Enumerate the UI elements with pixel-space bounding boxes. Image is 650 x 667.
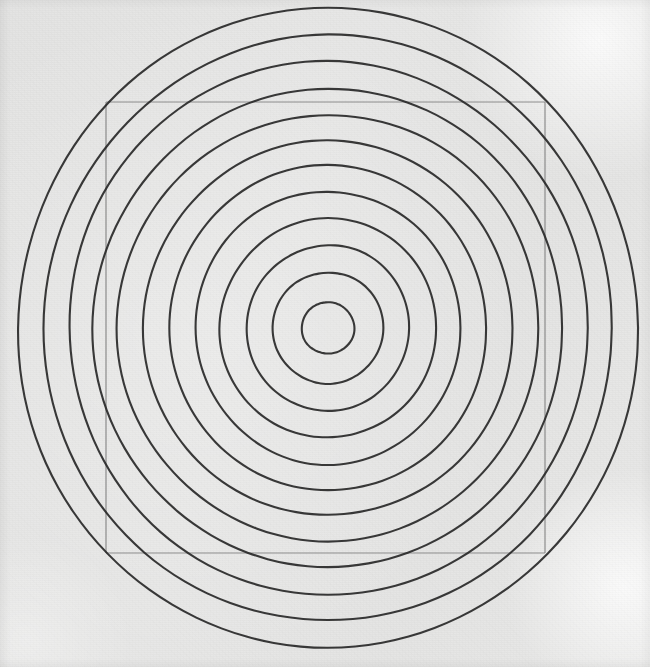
drawing-canvas — [0, 0, 650, 667]
circle-ring-2 — [273, 273, 384, 384]
circle-ring-9 — [92, 89, 562, 567]
circle-ring-6 — [169, 165, 486, 490]
inscribed-square-layer — [106, 102, 545, 553]
circle-ring-11 — [43, 34, 611, 620]
circle-ring-4 — [219, 218, 436, 437]
circle-ring-5 — [196, 192, 461, 465]
concentric-circles-figure — [0, 0, 650, 667]
circle-ring-8 — [117, 115, 539, 541]
circle-ring-7 — [143, 140, 513, 514]
circle-ring-3 — [247, 245, 409, 411]
circle-ring-1 — [302, 302, 355, 353]
